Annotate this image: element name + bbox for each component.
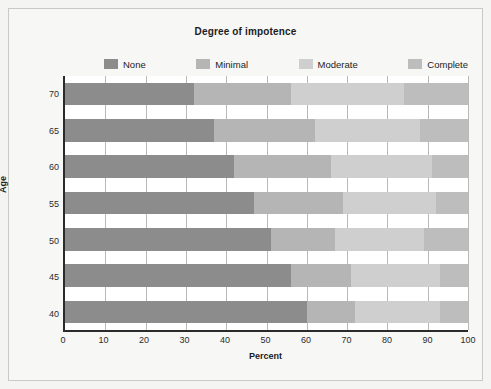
y-axis-tick-label: 50 [19, 236, 59, 246]
bar-row [65, 301, 468, 323]
bar-segment [65, 264, 291, 286]
bar-segment [351, 264, 440, 286]
y-axis-title: Age [0, 176, 8, 193]
bar-segment [440, 301, 468, 323]
bar-segment [355, 301, 440, 323]
x-axis-title: Percent [63, 351, 468, 361]
bar-row [65, 83, 468, 105]
x-axis-tick-label: 0 [60, 335, 65, 345]
bar-segment [234, 155, 331, 177]
bar-segment [65, 228, 271, 250]
bar-segment [291, 264, 351, 286]
x-axis-tick-label: 90 [422, 335, 432, 345]
x-axis-tick-label: 100 [460, 335, 475, 345]
legend-entry: Moderate [299, 59, 358, 70]
legend-swatch-icon [196, 59, 210, 69]
bar-row [65, 192, 468, 214]
x-axis-tick-label: 40 [220, 335, 230, 345]
legend-entry: None [104, 59, 146, 70]
x-axis-tick-label: 80 [382, 335, 392, 345]
y-axis-tick-label: 70 [19, 89, 59, 99]
x-axis-tick-label: 20 [139, 335, 149, 345]
bar-segment [436, 192, 468, 214]
y-axis-tick-label: 60 [19, 162, 59, 172]
x-axis-tick-label: 50 [260, 335, 270, 345]
y-axis-tick-label: 65 [19, 126, 59, 136]
bar-segment [291, 83, 404, 105]
bar-segment [343, 192, 436, 214]
bar-segment [335, 228, 424, 250]
x-axis-tick-label: 10 [98, 335, 108, 345]
bar-row [65, 228, 468, 250]
y-axis-tick-labels: 70656055504540 [14, 76, 59, 332]
bar-segment [404, 83, 468, 105]
bar-segment [65, 192, 254, 214]
plot-area [63, 76, 468, 332]
chart-legend: NoneMinimalModerateComplete [104, 57, 468, 71]
bar-segment [331, 155, 432, 177]
legend-label: Minimal [215, 59, 248, 70]
bar-row [65, 155, 468, 177]
y-axis-tick-label: 45 [19, 272, 59, 282]
bar-segment [420, 119, 468, 141]
bar-segment [65, 83, 194, 105]
legend-label: Complete [427, 59, 468, 70]
bar-row [65, 119, 468, 141]
y-axis-tick-label: 40 [19, 309, 59, 319]
bar-segment [271, 228, 335, 250]
x-axis-tick-labels: 0102030405060708090100 [63, 335, 468, 349]
bar-segment [214, 119, 315, 141]
bar-segment [315, 119, 420, 141]
legend-label: Moderate [318, 59, 358, 70]
bar-segment [65, 301, 307, 323]
chart-title: Degree of impotence [0, 26, 491, 37]
bar-segment [307, 301, 355, 323]
bar-series-container [65, 76, 468, 330]
bar-segment [424, 228, 468, 250]
legend-swatch-icon [299, 59, 313, 69]
legend-label: None [123, 59, 146, 70]
x-axis-tick-label: 60 [301, 335, 311, 345]
legend-entry: Complete [408, 59, 468, 70]
y-axis-tick-label: 55 [19, 199, 59, 209]
legend-swatch-icon [104, 59, 118, 69]
bar-segment [440, 264, 468, 286]
bar-segment [194, 83, 291, 105]
bar-row [65, 264, 468, 286]
bar-segment [254, 192, 343, 214]
bar-segment [65, 155, 234, 177]
bar-segment [432, 155, 468, 177]
x-axis-tick-label: 30 [179, 335, 189, 345]
legend-swatch-icon [408, 59, 422, 69]
chart-figure: Degree of impotence NoneMinimalModerateC… [0, 0, 491, 389]
x-axis-tick-label: 70 [341, 335, 351, 345]
legend-entry: Minimal [196, 59, 248, 70]
bar-segment [65, 119, 214, 141]
